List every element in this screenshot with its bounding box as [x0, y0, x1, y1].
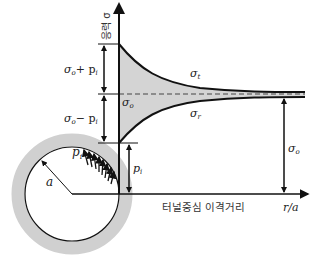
y-axis-label: 응력 σ [101, 12, 112, 40]
x-axis-caption: 터널중심 이격거리 [162, 201, 245, 213]
tangential-label: σt [190, 67, 201, 81]
far-field-right-label: σo [288, 142, 300, 156]
x-axis-label: r/a [283, 201, 299, 214]
internal-pressure-label: pi [133, 162, 142, 176]
radius-label: a [46, 175, 53, 189]
stress-diagram: a pi 응력 σ σo+ pi σo− pi pi σo [0, 0, 316, 263]
dim-upper-label: σo+ pi [64, 63, 98, 77]
radial-label: σr [190, 107, 202, 121]
dim-lower-label: σo− pi [64, 112, 98, 126]
